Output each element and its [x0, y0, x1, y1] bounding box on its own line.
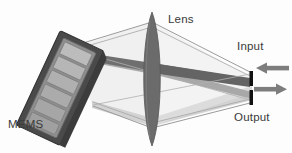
label-mems-line1: MEMS — [8, 118, 43, 131]
label-lens: Lens — [168, 13, 194, 26]
output-arrow — [254, 84, 287, 95]
diagram-canvas — [0, 0, 292, 153]
output-fiber-bar — [250, 90, 254, 105]
label-output: Output — [234, 111, 270, 124]
input-arrow — [256, 63, 289, 74]
optical-system-diagram: MEMS SLM Lens Input Output — [0, 0, 292, 153]
label-mems-slm: MEMS SLM — [8, 92, 43, 153]
label-input: Input — [237, 40, 264, 53]
input-fiber-bar — [250, 71, 254, 86]
